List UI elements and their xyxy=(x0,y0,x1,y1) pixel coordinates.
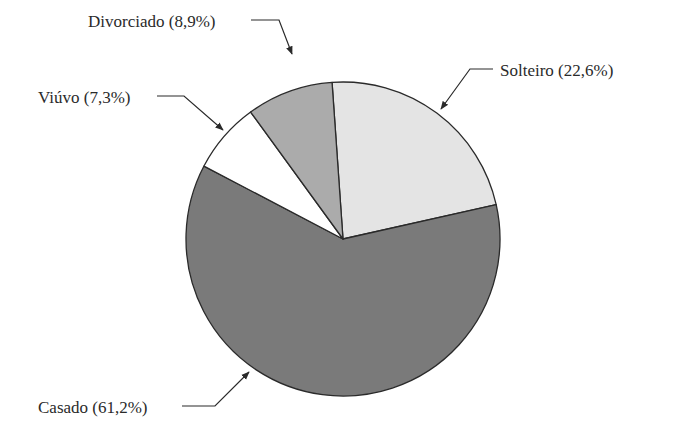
casado-callout-line xyxy=(182,372,249,406)
viuvo-callout-line xyxy=(157,96,223,130)
viuvo-label: Viúvo (7,3%) xyxy=(38,88,130,107)
pie-chart: Divorciado (8,9%) Solteiro (22,6%) Viúvo… xyxy=(0,0,676,442)
divorciado-label: Divorciado (8,9%) xyxy=(88,12,215,31)
solteiro-label: Solteiro (22,6%) xyxy=(500,61,613,80)
pie-slices xyxy=(186,82,500,396)
divorciado-callout-line xyxy=(251,20,292,54)
solteiro-callout-line xyxy=(441,69,493,109)
casado-label: Casado (61,2%) xyxy=(38,398,148,417)
